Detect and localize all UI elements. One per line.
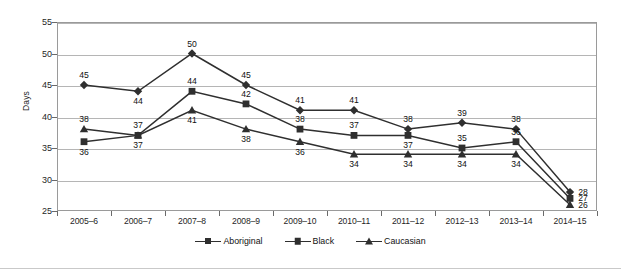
data-point-label: 37 bbox=[349, 120, 358, 130]
chart-legend: AboriginalBlackCaucasian bbox=[0, 236, 621, 246]
data-point-label: 39 bbox=[457, 108, 466, 118]
x-tick-mark bbox=[111, 211, 112, 216]
triangle-icon bbox=[356, 236, 382, 246]
data-point-label: 45 bbox=[79, 70, 88, 80]
diamond-icon bbox=[195, 236, 221, 246]
legend-label: Caucasian bbox=[384, 237, 426, 246]
x-tick-mark bbox=[543, 211, 544, 216]
x-tick-label: 2006–7 bbox=[124, 216, 152, 226]
x-tick-label: 2013–14 bbox=[500, 216, 533, 226]
data-point-label: 41 bbox=[295, 95, 304, 105]
legend-item-aboriginal[interactable]: Aboriginal bbox=[195, 236, 262, 246]
y-tick-label: 35 bbox=[32, 144, 52, 153]
x-tick-mark bbox=[597, 211, 598, 216]
data-point-label: 38 bbox=[295, 114, 304, 124]
data-point-label: 37 bbox=[133, 140, 142, 150]
data-point-label: 26 bbox=[578, 200, 587, 210]
data-point-label: 44 bbox=[133, 96, 142, 106]
x-tick-label: 2005–6 bbox=[70, 216, 98, 226]
x-tick-mark bbox=[165, 211, 166, 216]
bottom-divider bbox=[0, 268, 621, 269]
y-tick-label: 30 bbox=[32, 175, 52, 184]
x-tick-label: 2009–10 bbox=[284, 216, 317, 226]
data-point-label: 38 bbox=[241, 134, 250, 144]
data-point-label: 42 bbox=[241, 89, 250, 99]
data-point-label: 35 bbox=[457, 133, 466, 143]
square-icon bbox=[285, 236, 311, 246]
legend-item-caucasian[interactable]: Caucasian bbox=[356, 236, 426, 246]
y-tick-label: 25 bbox=[32, 207, 52, 216]
data-point-label: 37 bbox=[403, 140, 412, 150]
data-point-label: 36 bbox=[79, 147, 88, 157]
data-point-label: 38 bbox=[403, 114, 412, 124]
x-tick-mark bbox=[327, 211, 328, 216]
data-point-label: 41 bbox=[349, 95, 358, 105]
data-point-label: 44 bbox=[187, 76, 196, 86]
data-point-label: 36 bbox=[295, 147, 304, 157]
y-tick-label: 45 bbox=[32, 81, 52, 90]
data-point-label: 34 bbox=[349, 159, 358, 169]
x-tick-mark bbox=[219, 211, 220, 216]
y-tick-label: 50 bbox=[32, 49, 52, 58]
gridline bbox=[58, 55, 596, 56]
y-axis: 25303540455055 bbox=[28, 0, 52, 273]
x-tick-label: 2011–12 bbox=[392, 216, 424, 226]
data-point-label: 38 bbox=[79, 114, 88, 124]
data-point-label: 36 bbox=[511, 127, 520, 137]
x-tick-mark bbox=[381, 211, 382, 216]
x-tick-label: 2014–15 bbox=[554, 216, 587, 226]
legend-item-black[interactable]: Black bbox=[285, 236, 335, 246]
data-point-label: 45 bbox=[241, 70, 250, 80]
gridline bbox=[58, 23, 596, 24]
data-point-label: 41 bbox=[187, 115, 196, 125]
gridline bbox=[58, 181, 596, 182]
x-tick-mark bbox=[435, 211, 436, 216]
legend-label: Black bbox=[313, 237, 335, 246]
x-tick-mark bbox=[489, 211, 490, 216]
data-point-label: 37 bbox=[133, 120, 142, 130]
legend-label: Aboriginal bbox=[223, 237, 262, 246]
data-point-label: 38 bbox=[511, 114, 520, 124]
x-tick-label: 2010–11 bbox=[338, 216, 370, 226]
x-tick-label: 2012–13 bbox=[446, 216, 479, 226]
x-tick-mark bbox=[57, 211, 58, 216]
x-tick-mark bbox=[273, 211, 274, 216]
data-point-label: 34 bbox=[403, 159, 412, 169]
y-tick-label: 40 bbox=[32, 112, 52, 121]
data-point-label: 34 bbox=[457, 159, 466, 169]
line-chart: Days 25303540455055 2005–62006–72007–820… bbox=[0, 0, 621, 273]
y-tick-label: 55 bbox=[32, 18, 52, 27]
data-point-label: 50 bbox=[187, 39, 196, 49]
x-tick-label: 2007–8 bbox=[178, 216, 206, 226]
data-point-label: 34 bbox=[511, 159, 520, 169]
gridline bbox=[58, 86, 596, 87]
x-tick-label: 2008–9 bbox=[232, 216, 260, 226]
